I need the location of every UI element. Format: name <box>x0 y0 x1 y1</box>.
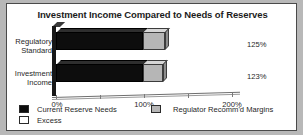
gray-swatch-icon <box>151 105 161 113</box>
x-axis-tick-50 <box>100 95 101 99</box>
white-swatch-icon <box>19 116 29 124</box>
legend-label-regulator-margins: Regulator Recomm'd Margins <box>173 105 273 114</box>
category-label-line-2: Standard <box>6 47 52 56</box>
bar-end-cap <box>165 28 169 50</box>
bar-end-cap <box>163 60 167 82</box>
value-label-investment-income: 123% <box>247 72 266 81</box>
category-label-line-2: Income <box>6 79 52 88</box>
x-axis-tick-150 <box>188 94 189 98</box>
category-label-investment-income: Investment Income <box>6 70 52 87</box>
value-label-regulatory-standard: 125% <box>247 40 266 49</box>
black-swatch-icon <box>19 105 29 113</box>
bar-segment-regulator-margins[interactable] <box>143 32 165 50</box>
x-axis-tick-100 <box>144 94 145 98</box>
x-axis-tick-200 <box>232 93 233 97</box>
bar-segment-current-reserve-needs[interactable] <box>56 64 143 82</box>
chart-frame: Investment Income Compared to Needs of R… <box>6 3 297 131</box>
bar-segment-current-reserve-needs[interactable] <box>56 32 143 50</box>
chart-title: Investment Income Compared to Needs of R… <box>7 9 297 20</box>
legend-label-current-reserve-needs: Current Reserve Needs <box>37 105 117 114</box>
plot-area: Regulatory Standard Investment Income 12… <box>7 22 297 100</box>
x-axis-tick-0 <box>56 95 57 99</box>
category-label-regulatory-standard: Regulatory Standard <box>6 38 52 55</box>
bar-segment-regulator-margins[interactable] <box>143 64 163 82</box>
chart-legend: Current Reserve Needs Excess Regulator R… <box>7 103 297 131</box>
legend-label-excess: Excess <box>37 116 61 125</box>
